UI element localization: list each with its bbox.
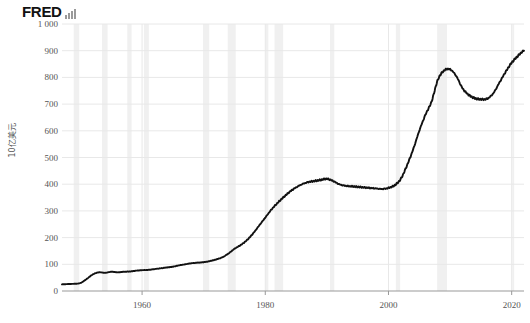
vertical-gridlines: [142, 24, 512, 295]
plot-area: [0, 0, 530, 323]
fred-chart: FRED 10亿美元 1 000900800700600500400300200…: [0, 0, 530, 323]
